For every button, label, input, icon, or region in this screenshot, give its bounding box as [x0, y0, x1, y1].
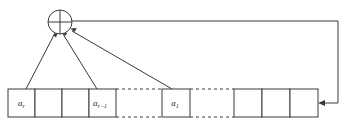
cell-blank-3[interactable]	[234, 89, 262, 117]
left-cell-group: ar ar−1	[8, 89, 116, 117]
right-cell-group	[234, 89, 318, 117]
tap-line-a-r	[26, 33, 55, 89]
cell-blank-4[interactable]	[262, 89, 290, 117]
dashed-gap-right	[190, 89, 234, 117]
cell-label-a-1-sub: 1	[176, 103, 179, 109]
dashed-gap-left	[116, 89, 162, 117]
cell-label-a-r-minus-1-sub: r−1	[98, 103, 107, 109]
tap-line-a-1	[72, 31, 172, 89]
cell-blank-1[interactable]	[35, 89, 62, 117]
lfsr-canvas: ar ar−1 a1	[0, 0, 350, 128]
middle-cell-group: a1	[162, 89, 190, 117]
cell-blank-5[interactable]	[290, 89, 318, 117]
cell-blank-2[interactable]	[62, 89, 89, 117]
tap-lines-group	[26, 28, 172, 89]
xor-gate	[48, 10, 72, 34]
lfsr-diagram: ar ar−1 a1	[0, 0, 350, 128]
feedback-arrowhead-icon	[318, 100, 325, 106]
